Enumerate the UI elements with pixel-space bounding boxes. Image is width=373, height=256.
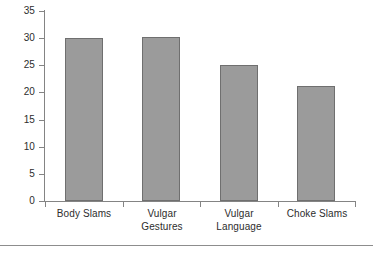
x-axis-category-label: Body Slams xyxy=(45,208,123,221)
x-tick-mark xyxy=(45,201,46,207)
bar-chart-figure: 05101520253035 Body SlamsVulgarGesturesV… xyxy=(0,0,373,246)
bar xyxy=(297,86,335,201)
x-tick-mark xyxy=(278,201,279,207)
bar xyxy=(65,38,103,201)
bottom-separator-rule xyxy=(0,245,373,246)
y-tick-label: 5 xyxy=(0,169,35,179)
x-axis-category-label: Choke Slams xyxy=(278,208,356,221)
bar xyxy=(142,37,180,201)
y-tick-mark xyxy=(39,147,45,148)
y-tick-label: 10 xyxy=(0,142,35,152)
x-tick-mark xyxy=(200,201,201,207)
y-tick-label: 30 xyxy=(0,33,35,43)
y-tick-label: 15 xyxy=(0,115,35,125)
y-tick-mark xyxy=(39,174,45,175)
y-tick-mark xyxy=(39,65,45,66)
x-axis-label-line: Body Slams xyxy=(45,208,123,221)
x-axis-label-line: Vulgar xyxy=(123,208,201,221)
x-tick-mark xyxy=(123,201,124,207)
y-tick-mark xyxy=(39,11,45,12)
y-tick-mark xyxy=(39,38,45,39)
x-axis-label-line: Vulgar xyxy=(200,208,278,221)
x-axis-label-line: Gestures xyxy=(123,221,201,234)
x-axis-category-label: VulgarLanguage xyxy=(200,208,278,233)
x-axis-category-label: VulgarGestures xyxy=(123,208,201,233)
x-axis-line xyxy=(40,201,356,202)
y-tick-mark xyxy=(39,92,45,93)
x-tick-mark xyxy=(355,201,356,207)
y-tick-label: 35 xyxy=(0,6,35,16)
x-axis-label-line: Choke Slams xyxy=(278,208,356,221)
x-axis-label-line: Language xyxy=(200,221,278,234)
y-tick-label: 20 xyxy=(0,87,35,97)
y-tick-mark xyxy=(39,120,45,121)
y-tick-label: 0 xyxy=(0,196,35,206)
y-tick-label: 25 xyxy=(0,60,35,70)
bar xyxy=(220,65,258,201)
